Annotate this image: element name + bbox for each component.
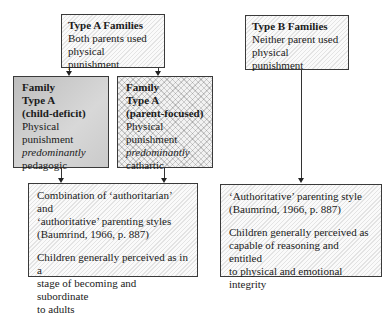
child-deficit-line1: Physical bbox=[22, 120, 102, 133]
child-deficit-line2: punishment bbox=[22, 133, 102, 146]
outcome-b-line3: Children generally perceived as bbox=[229, 226, 373, 239]
child-deficit-title2: Type A bbox=[22, 94, 102, 107]
parent-focused-title2: Type A bbox=[126, 94, 206, 107]
type-a-line2: physical punishment bbox=[68, 45, 158, 71]
outcome-a-line2: ‘authoritative’ parenting styles bbox=[37, 215, 189, 228]
parent-focused-line2: punishment bbox=[126, 133, 206, 146]
child-deficit-line3: predominantly bbox=[22, 146, 102, 159]
outcome-a-box: Combination of ‘authoritarian’ and ‘auth… bbox=[28, 183, 198, 277]
type-b-title: Type B Families bbox=[252, 20, 342, 33]
type-a-title: Type A Families bbox=[68, 19, 158, 32]
parent-focused-line4: cathartic bbox=[126, 159, 206, 172]
parent-focused-title3: (parent-focused) bbox=[126, 107, 206, 120]
outcome-b-line5: to physical and emotional bbox=[229, 265, 373, 278]
outcome-b-line2: (Baumrind, 1966, p. 887) bbox=[229, 203, 373, 216]
outcome-a-line3: (Baumrind, 1966, p. 887) bbox=[37, 228, 189, 241]
outcome-a-line5: stage of becoming and subordinate bbox=[37, 277, 189, 303]
outcome-a-line6: to adults bbox=[37, 303, 189, 316]
outcome-a-line4: Children generally perceived as in a bbox=[37, 251, 189, 277]
type-a-families-box: Type A Families Both parents used physic… bbox=[61, 14, 165, 68]
child-deficit-line4: pedagogic bbox=[22, 159, 102, 172]
outcome-b-line4: capable of reasoning and entitled bbox=[229, 239, 373, 265]
outcome-b-line1: ‘Authoritative’ parenting style bbox=[229, 190, 373, 203]
type-b-families-box: Type B Families Neither parent used phys… bbox=[245, 15, 349, 70]
parent-focused-line3: predominantly bbox=[126, 146, 206, 159]
type-a-line1: Both parents used bbox=[68, 32, 158, 45]
parent-focused-title1: Family bbox=[126, 81, 206, 94]
arrow-head-icon bbox=[298, 178, 304, 183]
child-deficit-title1: Family bbox=[22, 81, 102, 94]
type-b-line1: Neither parent used bbox=[252, 33, 342, 46]
type-b-line2: physical punishment bbox=[252, 46, 342, 72]
outcome-b-line6: integrity bbox=[229, 278, 373, 291]
parent-focused-line1: Physical bbox=[126, 120, 206, 133]
child-deficit-title3: (child-deficit) bbox=[22, 107, 102, 120]
child-deficit-box: Family Type A (child-deficit) Physical p… bbox=[13, 76, 109, 168]
connector-type-b bbox=[301, 70, 302, 179]
outcome-a-line1: Combination of ‘authoritarian’ and bbox=[37, 189, 189, 215]
parent-focused-box: Family Type A (parent-focused) Physical … bbox=[117, 76, 213, 168]
outcome-b-box: ‘Authoritative’ parenting style (Baumrin… bbox=[220, 184, 382, 277]
